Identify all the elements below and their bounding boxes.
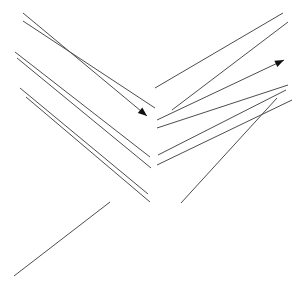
bottom-left-line bbox=[14, 202, 110, 276]
line-diagram bbox=[0, 0, 297, 290]
left-line-1-arrow bbox=[23, 13, 147, 116]
left-line-1-arrow-arrowhead-icon bbox=[138, 108, 147, 116]
right-line-5 bbox=[158, 90, 286, 155]
diagram-canvas bbox=[0, 0, 297, 290]
left-line-2 bbox=[23, 21, 155, 108]
right-line-7 bbox=[181, 98, 277, 203]
left-line-6 bbox=[26, 97, 150, 202]
right-line-3-arrow-arrowhead-icon bbox=[274, 60, 284, 67]
right-line-1 bbox=[155, 13, 283, 88]
left-line-4 bbox=[17, 58, 151, 168]
